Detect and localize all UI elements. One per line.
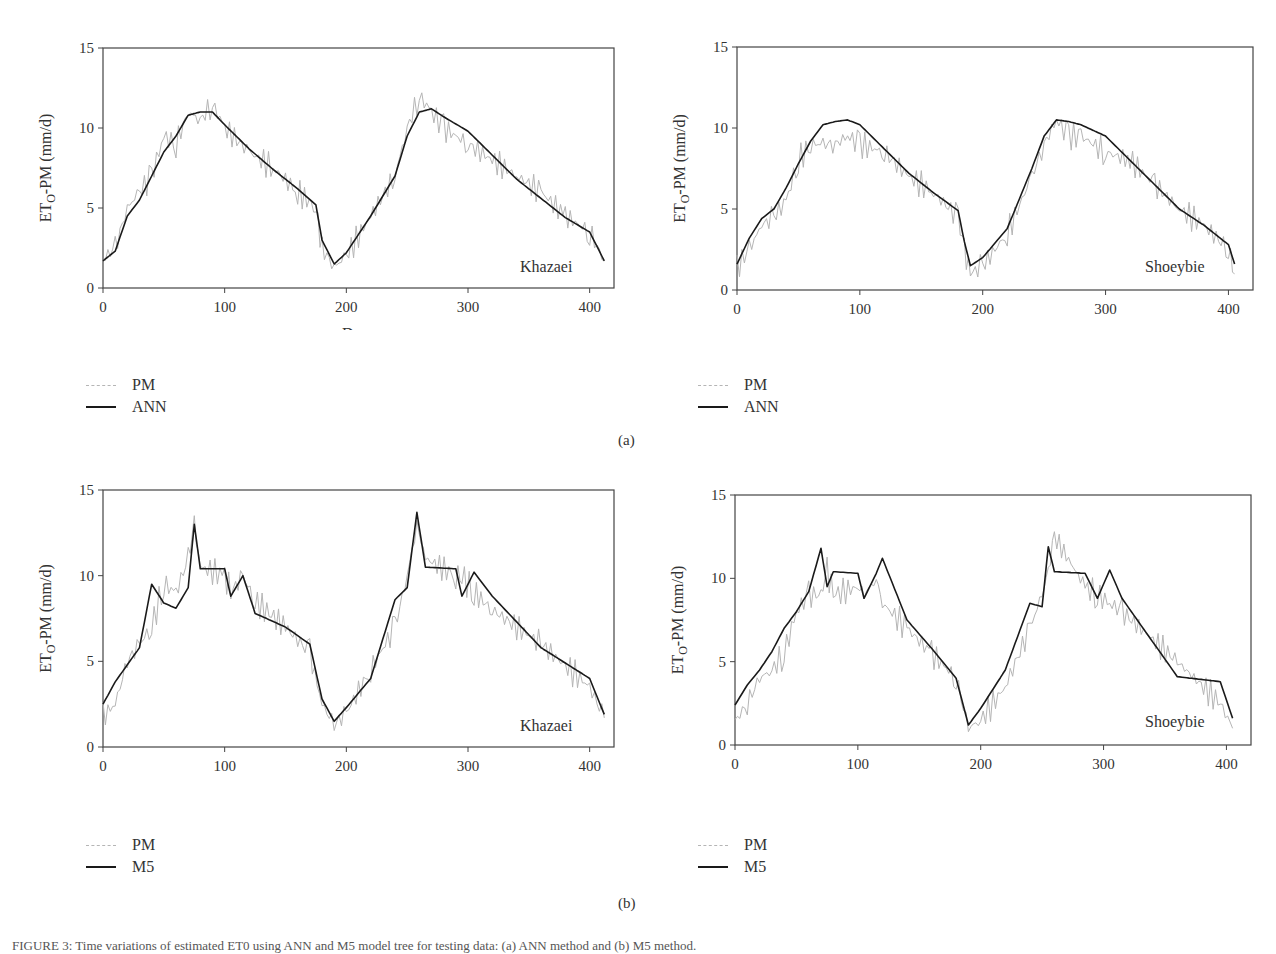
station-label: Shoeybie [1145, 258, 1205, 276]
pm-line-swatch [698, 385, 728, 386]
pm-line-swatch [698, 845, 728, 846]
legend-label: PM [132, 836, 155, 854]
y-tick-label: 5 [719, 654, 727, 670]
y-axis-label: ETO-PM (mm/d) [669, 566, 690, 675]
legend-label: ANN [744, 398, 779, 416]
model-line-swatch [86, 406, 116, 408]
legend-label: PM [132, 376, 155, 394]
figure-caption: FIGURE 3: Time variations of estimated E… [12, 938, 696, 954]
legend-label: PM [744, 376, 767, 394]
x-tick-label: 300 [1092, 756, 1115, 772]
legend-label: M5 [744, 858, 766, 876]
y-tick-label: 0 [721, 282, 729, 298]
plot-frame [735, 495, 1251, 745]
legend-label: M5 [132, 858, 154, 876]
legend-a-khazaei: PM ANN [86, 374, 167, 418]
x-tick-label: 400 [578, 758, 601, 774]
y-tick-label: 0 [719, 737, 727, 753]
y-tick-label: 5 [87, 200, 95, 216]
model-series-line [103, 512, 604, 721]
chart-panel-b-khazaei: 0510150100200300400DaysETO-PM (mm/d)Khaz… [0, 455, 640, 785]
plot-frame [103, 490, 614, 747]
y-tick-label: 10 [711, 570, 726, 586]
station-label: Khazaei [520, 717, 573, 734]
legend-item-model: ANN [698, 396, 779, 418]
y-tick-label: 15 [711, 487, 726, 503]
y-axis-label: ETO-PM (mm/d) [37, 564, 58, 673]
y-tick-label: 0 [87, 280, 95, 296]
x-tick-label: 0 [731, 756, 739, 772]
legend-item-pm: PM [698, 374, 779, 396]
legend-item-model: ANN [86, 396, 167, 418]
y-axis-label: ETO-PM (mm/d) [37, 114, 58, 223]
plot-frame [737, 47, 1253, 290]
chart-panel-a-khazaei: 0510150100200300400DaysETO-PM (mm/d)Khaz… [0, 0, 640, 330]
x-tick-label: 100 [213, 758, 236, 774]
x-tick-label: 300 [1094, 301, 1117, 317]
y-tick-label: 15 [79, 40, 94, 56]
model-series-line [737, 120, 1235, 266]
x-tick-label: 100 [213, 299, 236, 315]
subfigure-label-b: (b) [618, 895, 636, 912]
y-axis-label: ETO-PM (mm/d) [671, 114, 692, 223]
line-chart: 0510150100200300400DaysETO-PM (mm/d)Khaz… [0, 0, 640, 330]
station-label: Shoeybie [1145, 713, 1205, 731]
x-tick-label: 400 [1217, 301, 1240, 317]
line-chart: 0510150100200300400DaysETO-PM (mm/d)Shoe… [640, 455, 1276, 785]
legend-item-model: M5 [698, 856, 767, 878]
y-tick-label: 15 [713, 39, 728, 55]
y-tick-label: 5 [87, 653, 95, 669]
legend-label: ANN [132, 398, 167, 416]
legend-item-pm: PM [698, 834, 767, 856]
x-tick-label: 0 [733, 301, 741, 317]
x-tick-label: 400 [1215, 756, 1238, 772]
model-line-swatch [698, 406, 728, 408]
legend-b-khazaei: PM M5 [86, 834, 155, 878]
x-tick-label: 400 [578, 299, 601, 315]
line-chart: 0510150100200300400DaysETO-PM (mm/d)Khaz… [0, 455, 640, 785]
legend-item-model: M5 [86, 856, 155, 878]
x-tick-label: 300 [457, 758, 480, 774]
x-tick-label: 200 [335, 758, 358, 774]
y-tick-label: 15 [79, 482, 94, 498]
subfigure-label-a: (a) [618, 432, 635, 449]
x-tick-label: 0 [99, 758, 107, 774]
y-tick-label: 10 [79, 568, 94, 584]
pm-line-swatch [86, 385, 116, 386]
legend-item-pm: PM [86, 834, 155, 856]
y-tick-label: 10 [713, 120, 728, 136]
chart-panel-a-shoeybie: 0510150100200300400DaysETO-PM (mm/d)Shoe… [640, 0, 1276, 330]
model-line-swatch [86, 866, 116, 868]
x-tick-label: 200 [969, 756, 992, 772]
pm-series-line [735, 532, 1233, 732]
x-axis-label: Days [979, 327, 1012, 330]
y-tick-label: 0 [87, 739, 95, 755]
x-tick-label: 100 [847, 756, 870, 772]
legend-b-shoeybie: PM M5 [698, 834, 767, 878]
station-label: Khazaei [520, 258, 573, 275]
x-tick-label: 300 [457, 299, 480, 315]
chart-panel-b-shoeybie: 0510150100200300400DaysETO-PM (mm/d)Shoe… [640, 455, 1276, 785]
line-chart: 0510150100200300400DaysETO-PM (mm/d)Shoe… [640, 0, 1276, 330]
legend-label: PM [744, 836, 767, 854]
x-tick-label: 100 [849, 301, 872, 317]
x-axis-label: Days [342, 325, 375, 330]
y-tick-label: 5 [721, 201, 729, 217]
x-axis-label: Days [342, 784, 375, 785]
x-tick-label: 200 [971, 301, 994, 317]
legend-a-shoeybie: PM ANN [698, 374, 779, 418]
model-line-swatch [698, 866, 728, 868]
x-tick-label: 0 [99, 299, 107, 315]
x-axis-label: Days [977, 782, 1010, 785]
pm-line-swatch [86, 845, 116, 846]
y-tick-label: 10 [79, 120, 94, 136]
model-series-line [103, 109, 604, 264]
plot-frame [103, 48, 614, 288]
legend-item-pm: PM [86, 374, 167, 396]
x-tick-label: 200 [335, 299, 358, 315]
